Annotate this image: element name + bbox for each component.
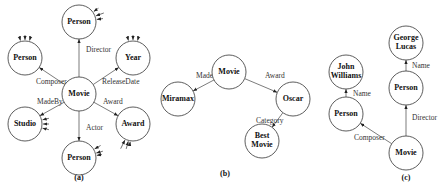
node-label: Award	[122, 119, 146, 128]
edge-label-award: Award	[103, 97, 123, 106]
expand-stub-arrow-icon	[19, 36, 20, 40]
expand-stub-arrow-icon	[43, 118, 49, 120]
panel-c: ComposerDirectorNameNameMoviePersonPerso…	[329, 26, 437, 182]
expand-stub-arrow-icon	[130, 142, 131, 146]
node-label: Studio	[14, 119, 36, 128]
node-year: Year	[116, 35, 150, 75]
panel-caption: (a)	[74, 173, 84, 182]
node-label: George	[394, 33, 419, 42]
expand-stub-arrow-icon	[121, 140, 125, 149]
node-movie: Movie	[389, 136, 423, 170]
edge-label-releasedate: ReleaseDate	[102, 77, 140, 86]
node-label: Person	[67, 153, 91, 162]
node-label: Miramax	[162, 94, 194, 103]
edge-label-composer: Composer	[36, 77, 67, 86]
edge-label-award: Award	[265, 71, 285, 80]
expand-stub-arrow-icon	[126, 141, 128, 149]
node-person-top: Person	[62, 5, 104, 39]
expand-stub-arrow-icon	[43, 128, 49, 130]
node-label: Lucas	[396, 42, 416, 51]
expand-stub-arrow-icon	[97, 19, 103, 20]
node-bestmovie: BestMovie	[245, 124, 279, 158]
edge-label-category: Category	[256, 116, 284, 125]
panel-a: DirectorComposerReleaseDateMadeByAwardAc…	[8, 5, 150, 182]
node-label: Person	[334, 109, 358, 118]
edge-label-actor: Actor	[86, 123, 104, 132]
node-person-bottom: Person	[62, 141, 103, 175]
expand-stub-arrow-icon	[127, 36, 128, 40]
node-person-r: Person	[389, 71, 423, 105]
node-label: Oscar	[283, 94, 304, 103]
edge-label-director: Director	[86, 45, 111, 54]
expand-stub-arrow-icon	[95, 145, 101, 148]
expand-stub-arrow-icon	[94, 8, 99, 11]
node-person-l: Person	[329, 97, 363, 131]
expand-stub-arrow-icon	[138, 36, 139, 40]
node-label: John	[338, 62, 355, 71]
node-john: JohnWilliams	[329, 55, 363, 89]
node-person-left: Person	[8, 35, 42, 75]
node-label: Movie	[395, 148, 417, 157]
node-award: Award	[116, 107, 150, 149]
expand-stub-arrow-icon	[96, 13, 104, 16]
node-label: Year	[125, 53, 141, 62]
node-label: Person	[394, 83, 418, 92]
node-studio: Studio	[8, 107, 49, 141]
node-label: Movie	[218, 67, 240, 76]
panel-caption: (b)	[220, 169, 230, 178]
node-label: Movie	[251, 140, 273, 149]
edge-label-director: Director	[412, 113, 437, 122]
node-movie: Movie	[212, 55, 246, 89]
node-miramax: Miramax	[161, 82, 195, 116]
node-label: Person	[67, 17, 91, 26]
node-label: Best	[255, 131, 270, 140]
panel-caption: (c)	[402, 173, 411, 182]
edge-label-name: Name	[412, 61, 431, 70]
expand-stub-arrow-icon	[97, 155, 102, 156]
schema-graph-figure: DirectorComposerReleaseDateMadeByAwardAc…	[0, 0, 446, 188]
edge-label-madeby: MadeBy	[37, 97, 63, 106]
edge-label-composer: Composer	[354, 133, 385, 142]
node-george: GeorgeLucas	[389, 26, 423, 60]
node-label: Movie	[68, 89, 90, 98]
node-oscar: Oscar	[276, 82, 310, 116]
edge-madeby-arrow	[193, 80, 214, 91]
edge-award-arrow	[245, 79, 278, 93]
panel-b: MadeByAwardCategoryMovieMiramaxOscarBest…	[161, 55, 310, 178]
node-label: Person	[13, 53, 37, 62]
node-movie: Movie	[62, 77, 96, 111]
expand-stub-arrow-icon	[30, 36, 31, 40]
expand-stub-arrow-icon	[96, 151, 103, 153]
edge-label-name: Name	[353, 89, 372, 98]
node-label: Williams	[331, 71, 362, 80]
